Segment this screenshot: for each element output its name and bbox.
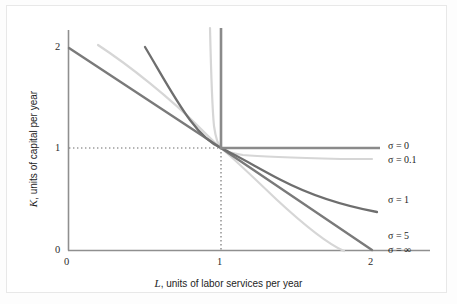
x-axis-title-text: , units of labor services per year: [161, 278, 303, 289]
ytick-label-2: 2: [55, 41, 60, 52]
xtick-label-2: 2: [368, 256, 373, 267]
y-axis-title-text: , units of capital per year: [28, 91, 39, 200]
series-label-sigma-5-text: σ = 5: [388, 230, 409, 241]
curve-sigma-0-1: [210, 28, 372, 159]
series-label-sigma-0-1-text: σ = 0.1: [388, 154, 417, 165]
xtick-label-0: 0: [64, 256, 69, 267]
xtick-label-1: 1: [217, 256, 222, 267]
curve-sigma-0: [221, 28, 380, 148]
series-label-sigma-infinity-text: σ = ∞: [388, 244, 411, 255]
series-label-sigma-1: σ = 1: [388, 194, 409, 205]
reference-guides: [69, 148, 221, 250]
y-axis-variable: K: [27, 200, 39, 207]
series-label-sigma-0: σ = 0: [388, 140, 409, 151]
y-axis-title: K, units of capital per year: [27, 54, 39, 244]
series-label-sigma-infinity: σ = ∞: [388, 244, 411, 255]
x-axis-title: L, units of labor services per year: [0, 277, 457, 289]
series-label-sigma-5: σ = 5: [388, 230, 409, 241]
figure-container: 0 1 2 0 1 2 L, units of labor services p…: [0, 0, 457, 304]
series-label-sigma-0-1: σ = 0.1: [388, 154, 417, 165]
curve-sigma-1: [145, 47, 377, 212]
series-label-sigma-0-text: σ = 0: [388, 140, 409, 151]
ytick-label-0: 0: [55, 244, 60, 255]
ytick-label-1: 1: [55, 142, 60, 153]
isoquant-series-group: [69, 28, 380, 251]
series-label-sigma-1-text: σ = 1: [388, 194, 409, 205]
